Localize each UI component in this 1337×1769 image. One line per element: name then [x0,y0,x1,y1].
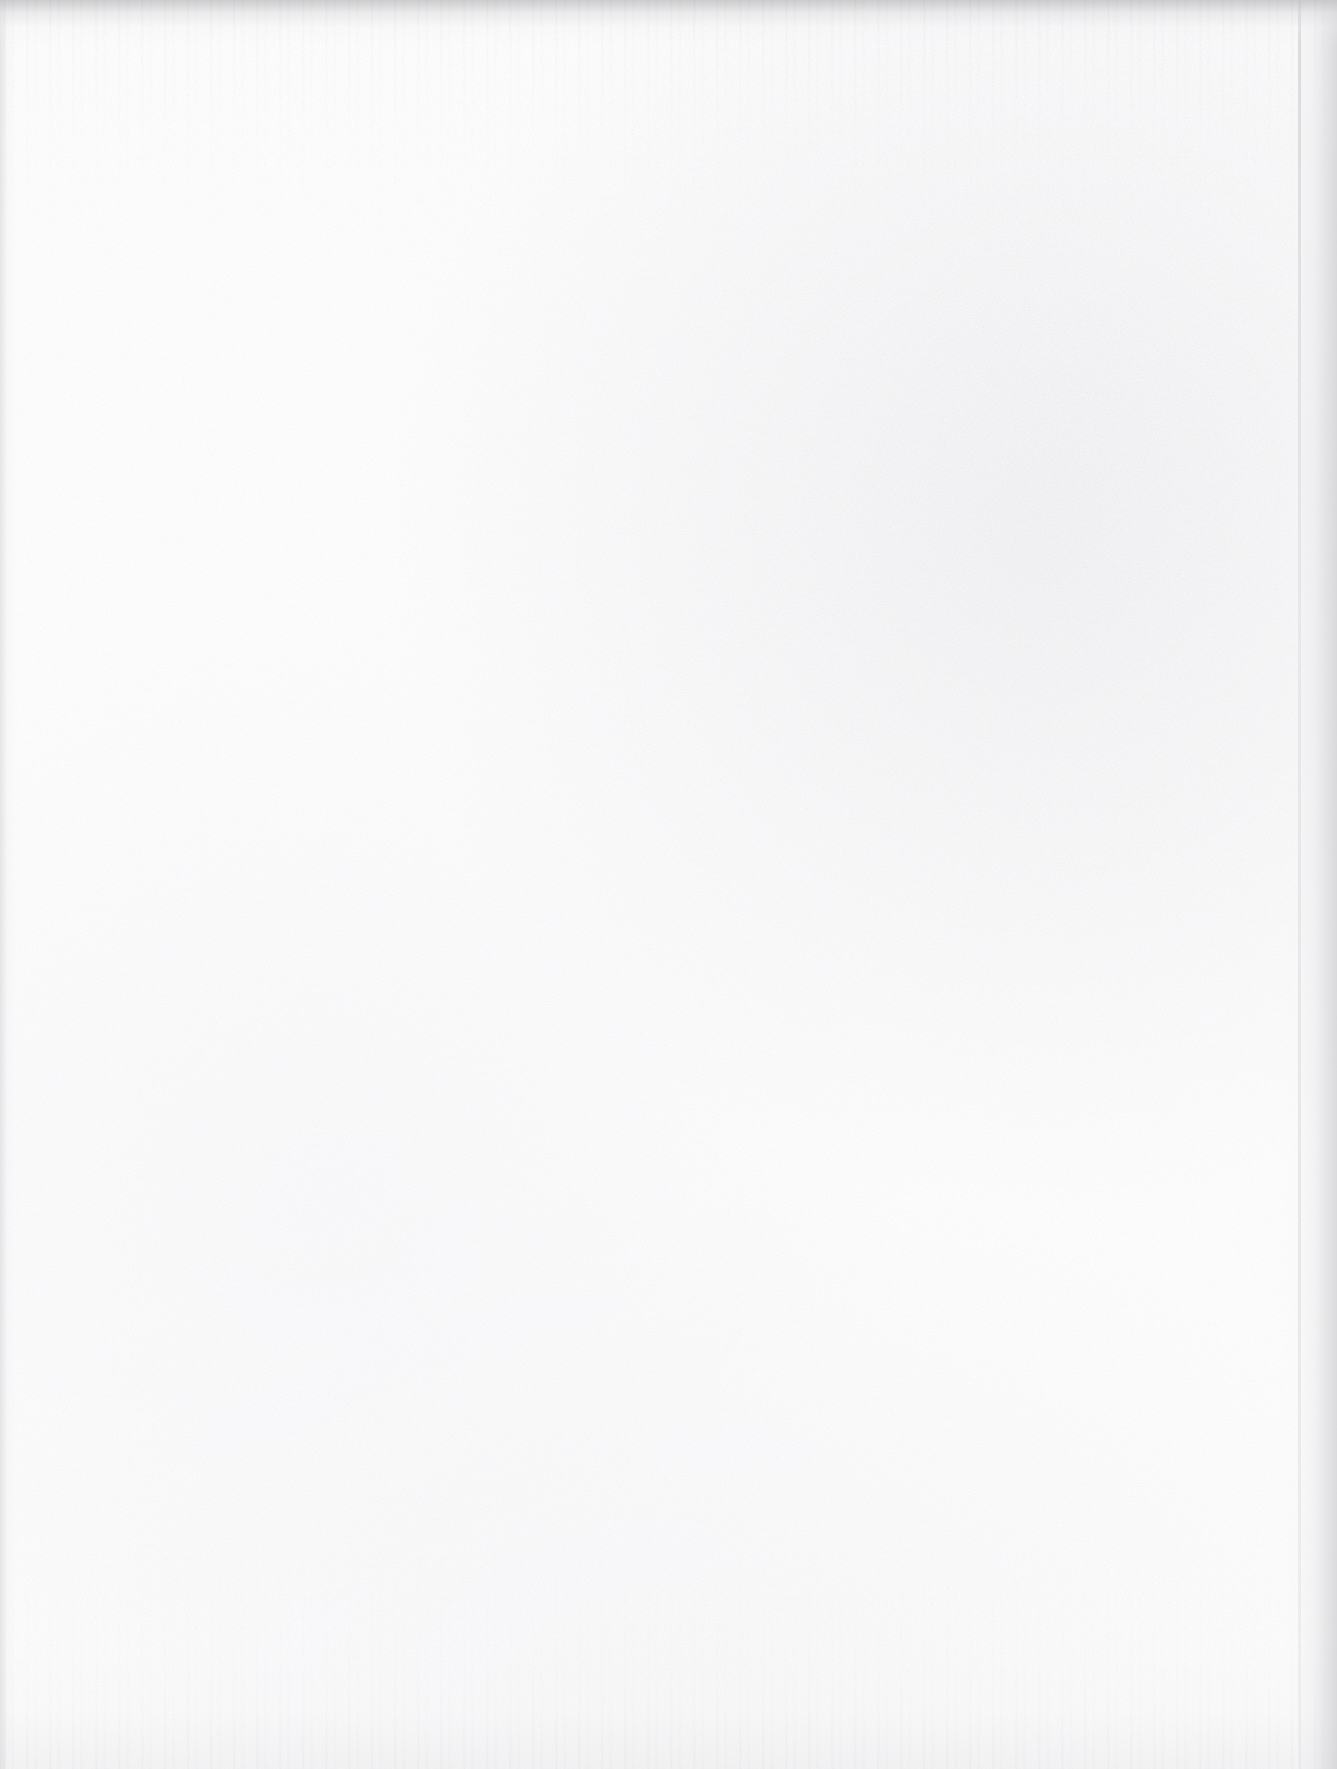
page-content-area [0,0,1337,1769]
scanned-page [0,0,1337,1769]
page-body-text [0,0,1337,1769]
